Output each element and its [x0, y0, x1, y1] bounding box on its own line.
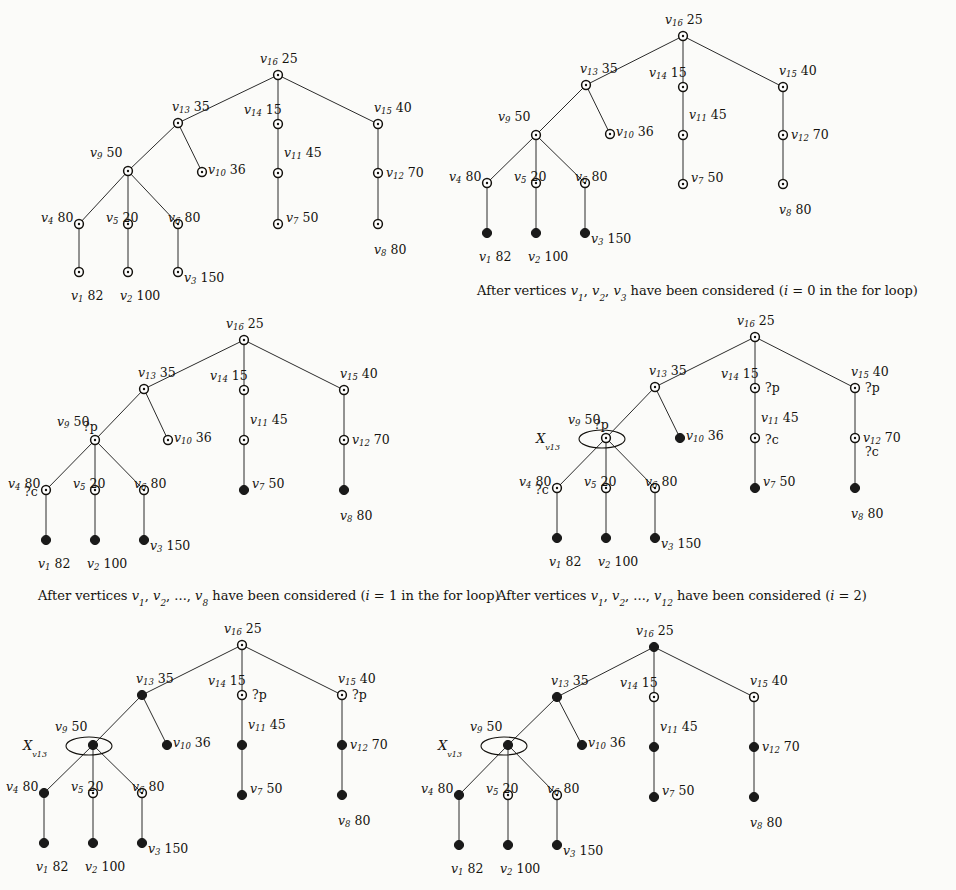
tree-node-v15: [750, 693, 759, 702]
vertex-label-v14: v14 15: [620, 677, 658, 690]
tree-node-v10: [577, 740, 586, 749]
vertex-label-v12: v12 70: [762, 741, 800, 754]
tree-node-v8: [749, 792, 758, 801]
tree-node-v14: [650, 693, 659, 702]
vertex-label-v9: v9 50: [470, 721, 502, 734]
caption-panel-2: After vertices v1, v2, v3 have been cons…: [477, 283, 918, 301]
tree-node-v9: [503, 740, 512, 749]
panel-6-graph: [0, 0, 956, 890]
tree-node-v2: [503, 840, 512, 849]
vertex-label-v5: v5 20: [486, 783, 518, 796]
vertex-label-v3: v3 150: [563, 845, 603, 858]
tree-node-v12: [749, 742, 758, 751]
tree-edge: [557, 697, 582, 745]
vertex-label-v4: v4 80: [421, 783, 453, 796]
figure-page: v16 25v13 35v14 15v15 40v9 50v10 36v11 4…: [0, 0, 956, 890]
vertex-label-v2: v2 100: [500, 863, 540, 876]
caption-panel-4: After vertices v1, v2, ..., v12 have bee…: [497, 588, 867, 606]
tree-node-v7: [649, 792, 658, 801]
tree-node-v3: [552, 840, 561, 849]
vertex-label-v1: v1 82: [451, 863, 483, 876]
tree-edge: [654, 647, 754, 697]
caption-panel-3: After vertices v1, v2, ..., v8 have been…: [38, 588, 500, 606]
vertex-label-v10: v10 36: [588, 737, 626, 750]
tree-node-v4: [454, 790, 463, 799]
vertex-label-v7: v7 50: [662, 785, 694, 798]
tree-node-v1: [454, 840, 463, 849]
vertex-label-v13: v13 35: [551, 675, 589, 688]
tree-node-v13: [552, 692, 561, 701]
vertex-label-v15: v15 40: [750, 675, 788, 688]
panel-6: Xv13v16 25v13 35v14 15v15 40v9 50v10 36v…: [0, 0, 956, 890]
tree-node-v16: [649, 642, 658, 651]
x-v13-label: Xv13: [438, 738, 462, 756]
vertex-label-v16: v16 25: [636, 625, 674, 638]
vertex-label-v11: v11 45: [660, 721, 698, 734]
vertex-label-v6: v6 80: [547, 783, 579, 796]
tree-node-v11: [649, 742, 658, 751]
vertex-label-v8: v8 80: [750, 817, 782, 830]
